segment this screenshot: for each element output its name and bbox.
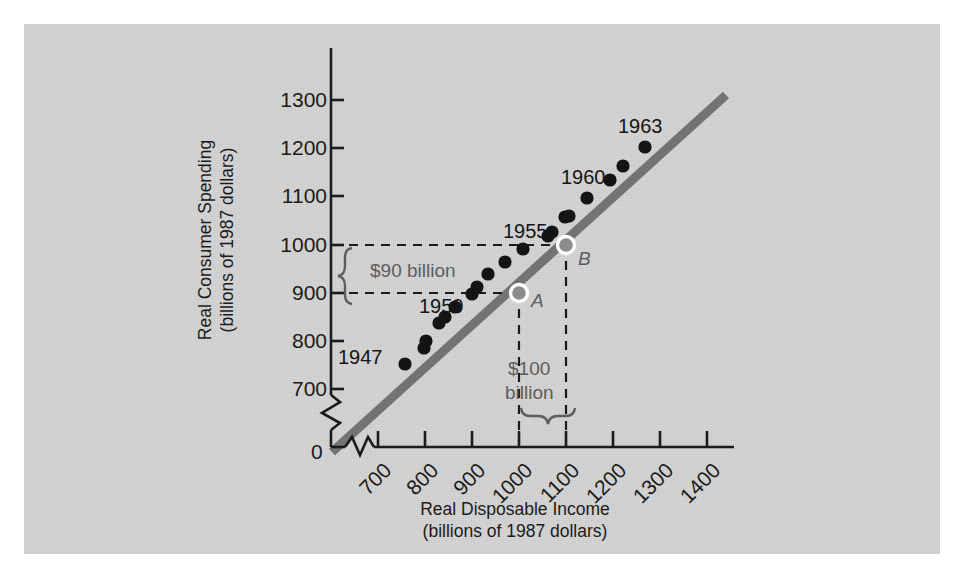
chart-plot (0, 0, 965, 576)
x-axis-title-line2: (billions of 1987 dollars) (350, 520, 680, 542)
data-point (498, 255, 511, 268)
point-label-b: B (578, 249, 591, 268)
y-axis-title-line2: (billions of 1987 dollars) (216, 75, 238, 405)
data-point (616, 159, 629, 172)
data-points (398, 140, 651, 370)
data-point (516, 242, 529, 255)
x-tick-marks (378, 431, 707, 447)
x-axis-title-line1: Real Disposable Income (350, 498, 680, 520)
x-axis-title: Real Disposable Income (billions of 1987… (350, 498, 680, 543)
highlight-point-a[interactable] (511, 285, 528, 302)
annotation-year-1950: 1950 (419, 296, 464, 316)
callout-run-label: $100 (508, 359, 550, 378)
data-point (562, 209, 575, 222)
y-tick-label-1200: 1200 (252, 137, 327, 158)
origin-label: 0 (311, 441, 323, 462)
x-axis-break-icon (345, 437, 374, 455)
data-point (470, 280, 483, 293)
y-tick-label-1100: 1100 (252, 185, 327, 206)
annotation-year-1955: 1955 (503, 221, 548, 241)
callout-run-label-2: billion (505, 383, 554, 402)
y-axis-title: Real Consumer Spending (billions of 1987… (196, 60, 236, 420)
y-tick-label-700: 700 (252, 378, 327, 399)
rise-brace-icon (338, 248, 352, 304)
y-tick-label-1000: 1000 (252, 234, 327, 255)
annotation-year-1947: 1947 (338, 347, 383, 367)
annotation-year-1963: 1963 (618, 116, 663, 136)
y-tick-label-900: 900 (252, 282, 327, 303)
highlight-point-b[interactable] (558, 237, 575, 254)
data-point (638, 140, 651, 153)
point-label-a: A (531, 291, 544, 310)
y-axis-title-line1: Real Consumer Spending (194, 75, 216, 405)
y-tick-label-800: 800 (252, 330, 327, 351)
data-point (419, 334, 432, 347)
callout-rise-label: $90 billion (370, 261, 456, 280)
data-point (481, 267, 494, 280)
annotation-year-1960: 1960 (561, 167, 606, 187)
figure-container: 1300 1200 1100 1000 900 800 700 0 700 80… (0, 0, 965, 576)
y-axis-break-icon (322, 395, 340, 430)
data-point (580, 191, 593, 204)
data-point (398, 357, 411, 370)
y-tick-label-1300: 1300 (252, 89, 327, 110)
